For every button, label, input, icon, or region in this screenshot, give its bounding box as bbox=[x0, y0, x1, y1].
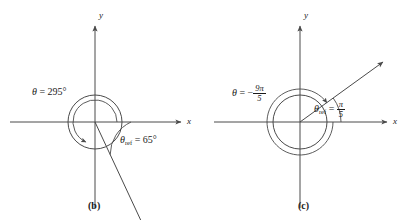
degree-icon: ° bbox=[63, 86, 67, 97]
ref-value: 65 bbox=[143, 134, 153, 145]
ref-subscript: ref bbox=[125, 139, 132, 146]
ref-subscript: ref bbox=[319, 108, 326, 115]
ref-degree-icon: ° bbox=[153, 134, 157, 145]
ref-fraction: π5 bbox=[337, 100, 345, 119]
panel-b: x y θ = 295° θref = 65° (b) bbox=[0, 0, 206, 220]
angle-theta-symbol: θ bbox=[32, 86, 37, 97]
panel-c: x y θ = −9π5 θref = π5 (c) bbox=[206, 0, 412, 220]
angle-equals: = bbox=[239, 87, 245, 98]
angle-label: θ = −9π5 bbox=[232, 84, 266, 103]
angle-denominator: 5 bbox=[253, 94, 266, 103]
angle-theta-symbol: θ bbox=[232, 87, 237, 98]
panel-b-caption: (b) bbox=[88, 200, 100, 211]
ref-equals: = bbox=[135, 134, 141, 145]
panel-c-caption: (c) bbox=[298, 200, 309, 211]
angle-value: 295 bbox=[48, 86, 63, 97]
x-axis-label: x bbox=[187, 116, 191, 126]
x-axis-label: x bbox=[393, 116, 397, 126]
figure-reference-angles: x y θ = 295° θref = 65° (b) bbox=[0, 0, 412, 220]
y-axis-label: y bbox=[99, 10, 103, 20]
ref-equals: = bbox=[329, 103, 335, 114]
reference-angle-label: θref = π5 bbox=[314, 100, 345, 119]
reference-angle-label: θref = 65° bbox=[120, 134, 157, 146]
ref-denominator: 5 bbox=[337, 110, 345, 119]
panel-c-drawing bbox=[206, 0, 412, 220]
angle-equals: = bbox=[39, 86, 45, 97]
angle-fraction: 9π5 bbox=[253, 84, 266, 103]
y-axis-label: y bbox=[304, 10, 308, 20]
angle-label: θ = 295° bbox=[32, 86, 67, 97]
panel-b-drawing bbox=[0, 0, 206, 220]
